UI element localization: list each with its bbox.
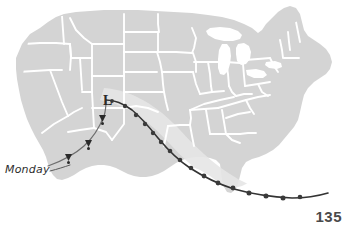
storm-position-dot: [247, 191, 252, 196]
page-number: 135: [315, 208, 342, 225]
boundary-mn-ia: [158, 52, 192, 53]
boundary-in-ky: [211, 86, 212, 92]
boundary-nd-mn: [158, 14, 159, 32]
storm-position-dot: [189, 166, 194, 171]
boundary-ar-la: [168, 125, 190, 126]
storm-position-dot: [134, 113, 138, 117]
boundary-ar-ms-tn: [190, 110, 191, 125]
storm-position-dot: [264, 194, 269, 199]
storm-position-dot: [231, 186, 236, 191]
storm-position-dot: [178, 158, 183, 163]
boundary-mi-in-oh: [210, 62, 240, 63]
storm-position-dot: [216, 181, 221, 186]
storm-position-dot: [168, 149, 173, 154]
us-storm-track-map: L: [0, 0, 350, 229]
storm-position-dot: [159, 140, 163, 144]
storm-position-dot: [143, 122, 147, 126]
storm-position-dot: [281, 196, 286, 201]
low-pressure-symbol: L: [103, 93, 112, 108]
storm-position-dot: [123, 104, 127, 108]
storm-position-dot: [151, 131, 155, 135]
boundary-ga-fl: [240, 133, 256, 134]
storm-position-dot: [298, 195, 303, 200]
map-page: L Monday 135: [0, 0, 350, 229]
storm-position-dot: [202, 174, 207, 179]
monday-annotation-label: Monday: [5, 163, 50, 176]
